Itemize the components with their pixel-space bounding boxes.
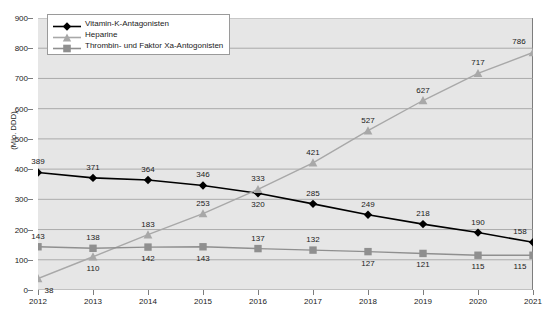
data-point-label: 132	[306, 235, 319, 244]
data-point-label: 364	[141, 164, 154, 173]
data-point-label: 115	[472, 262, 485, 271]
data-point-label: 190	[471, 217, 484, 226]
diamond-data-point-marker	[144, 176, 152, 184]
legend-item-thrombin[interactable]: Thrombin- und Faktor Xa-Antogonisten	[52, 40, 223, 51]
data-point-label: 218	[416, 209, 429, 218]
x-axis-tick-mark	[533, 290, 534, 295]
y-axis-tick-mark	[28, 48, 33, 49]
y-axis-tick-mark	[28, 109, 33, 110]
data-point-label: 371	[86, 162, 99, 171]
square-data-point-marker	[254, 245, 261, 252]
square-data-point-marker	[309, 246, 316, 253]
x-axis-tick-mark	[203, 290, 204, 295]
triangle-data-point-marker	[529, 48, 533, 56]
data-point-label: 786	[512, 37, 525, 46]
data-point-label: 421	[306, 147, 319, 156]
series-line	[38, 172, 533, 242]
square-marker-icon	[52, 40, 82, 51]
y-axis-tick-mark	[28, 290, 33, 291]
y-axis-tick-mark	[28, 230, 33, 231]
x-axis-tick-mark	[38, 290, 39, 295]
data-point-label: 627	[416, 85, 429, 94]
data-point-label: 38	[45, 285, 54, 294]
data-point-label: 249	[361, 199, 374, 208]
legend-item-label: Vitamin-K-Antagonisten	[85, 19, 169, 28]
square-data-point-marker	[419, 250, 426, 257]
data-point-label: 527	[361, 115, 374, 124]
diamond-data-point-marker	[89, 174, 97, 182]
square-data-point-marker	[529, 252, 533, 259]
x-axis-tick-mark	[478, 290, 479, 295]
x-axis-tick-label: 2017	[293, 297, 333, 306]
square-data-point-marker	[38, 243, 42, 250]
data-point-label: 158	[513, 227, 526, 236]
diamond-data-point-marker	[199, 181, 207, 189]
y-axis-tick-mark	[28, 78, 33, 79]
diamond-data-point-marker	[529, 238, 533, 246]
data-point-label: 320	[251, 200, 264, 209]
chart-container: (Mio. DDD) 0100200300400500600700800900 …	[0, 0, 543, 318]
x-axis-tick-mark	[313, 290, 314, 295]
data-point-label: 183	[141, 219, 154, 228]
x-axis-tick-label: 2016	[238, 297, 278, 306]
legend-item-vitamin-k[interactable]: Vitamin-K-Antagonisten	[52, 18, 223, 29]
y-axis-tick-mark	[28, 139, 33, 140]
series-line	[38, 247, 533, 255]
legend-item-heparine[interactable]: Heparine	[52, 29, 223, 40]
chart-legend: Vitamin-K-Antagonisten Heparine Thrombin…	[47, 14, 230, 55]
plot-svg	[38, 18, 533, 290]
data-point-label: 110	[87, 263, 100, 272]
diamond-data-point-marker	[364, 211, 372, 219]
data-point-label: 137	[251, 233, 264, 242]
triangle-data-point-marker	[309, 158, 318, 166]
triangle-data-point-marker	[419, 96, 428, 104]
square-data-point-marker	[144, 243, 151, 250]
x-axis-tick-mark	[148, 290, 149, 295]
data-point-label: 285	[306, 188, 319, 197]
x-axis-tick-label: 2012	[18, 297, 58, 306]
y-axis-tick-mark	[28, 260, 33, 261]
triangle-data-point-marker	[364, 126, 373, 134]
square-data-point-marker	[199, 243, 206, 250]
data-point-label: 138	[86, 233, 99, 242]
data-point-label: 717	[471, 58, 484, 67]
y-axis-tick-mark	[28, 169, 33, 170]
x-axis-tick-label: 2019	[403, 297, 443, 306]
triangle-data-point-marker	[254, 185, 263, 193]
legend-item-label: Heparine	[85, 30, 117, 39]
square-data-point-marker	[364, 248, 371, 255]
data-point-label: 143	[196, 253, 209, 262]
triangle-data-point-marker	[199, 209, 208, 217]
legend-item-label: Thrombin- und Faktor Xa-Antogonisten	[85, 41, 223, 50]
x-axis-tick-label: 2014	[128, 297, 168, 306]
x-axis-tick-label: 2020	[458, 297, 498, 306]
triangle-data-point-marker	[474, 69, 483, 77]
x-axis-tick-mark	[423, 290, 424, 295]
data-point-label: 115	[514, 262, 527, 271]
data-point-label: 333	[251, 174, 264, 183]
data-point-label: 143	[31, 231, 44, 240]
x-axis-tick-mark	[368, 290, 369, 295]
y-axis-tick-mark	[28, 199, 33, 200]
x-axis-tick-mark	[93, 290, 94, 295]
square-data-point-marker	[89, 245, 96, 252]
triangle-marker-icon	[52, 29, 82, 40]
triangle-data-point-marker	[144, 230, 153, 238]
plot-area: 3893713643463202852492181901583811018325…	[38, 18, 533, 290]
data-point-label: 346	[196, 170, 209, 179]
data-point-label: 121	[416, 260, 429, 269]
x-axis-tick-label: 2015	[183, 297, 223, 306]
triangle-data-point-marker	[89, 252, 98, 260]
x-axis-tick-label: 2013	[73, 297, 113, 306]
x-axis-tick-label: 2018	[348, 297, 388, 306]
data-point-label: 142	[141, 254, 154, 263]
data-point-label: 389	[31, 157, 44, 166]
series-line	[38, 52, 533, 278]
diamond-data-point-marker	[419, 220, 427, 228]
x-axis-tick-label: 2021	[513, 297, 543, 306]
data-point-label: 253	[196, 198, 209, 207]
diamond-data-point-marker	[309, 200, 317, 208]
y-axis-tick-mark	[28, 18, 33, 19]
x-axis-tick-mark	[258, 290, 259, 295]
data-point-label: 127	[361, 258, 374, 267]
